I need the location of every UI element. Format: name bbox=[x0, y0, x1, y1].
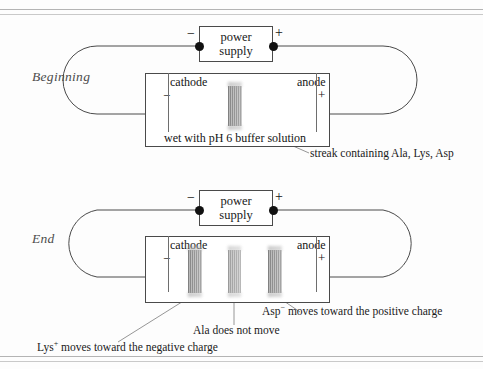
caption-lys-rest: moves toward the negative charge bbox=[58, 341, 218, 353]
terminal-dot-positive-end bbox=[269, 206, 278, 215]
caption-lys: Lys+ moves toward the negative charge bbox=[37, 341, 218, 353]
caption-asp: Asp− moves toward the positive charge bbox=[262, 305, 442, 317]
cathode-bar-beginning bbox=[168, 73, 169, 132]
psu-negative-sign-end: − bbox=[187, 191, 195, 205]
caption-lys-prefix: Lys bbox=[37, 341, 54, 353]
psu-positive-sign-beginning: + bbox=[275, 26, 283, 40]
anode-bar-end bbox=[316, 236, 317, 292]
caption-streak: streak containing Ala, Lys, Asp bbox=[310, 147, 454, 159]
terminal-dot-negative-end bbox=[195, 206, 204, 215]
terminal-dot-positive-beginning bbox=[269, 42, 278, 51]
electrophoresis-figure: Beginning power supply − + cathode − ano… bbox=[0, 0, 483, 369]
psu-line-1-end: power bbox=[220, 194, 251, 208]
bottom-rule-lower bbox=[0, 361, 483, 362]
bottom-rule-upper bbox=[0, 356, 483, 357]
stage-label-end: End bbox=[32, 231, 55, 247]
caption-asp-rest: moves toward the positive charge bbox=[285, 305, 442, 317]
anode-bar-beginning bbox=[316, 73, 317, 132]
band-asp bbox=[268, 250, 282, 293]
band-lys bbox=[188, 250, 202, 293]
power-supply-end: power supply bbox=[199, 190, 273, 226]
psu-line-2: supply bbox=[219, 44, 252, 58]
anode-sign-beginning: + bbox=[318, 88, 325, 101]
buffer-text-beginning: wet with pH 6 buffer solution bbox=[164, 131, 306, 146]
terminal-dot-negative-beginning bbox=[195, 42, 204, 51]
psu-positive-sign-end: + bbox=[275, 190, 283, 204]
cathode-sign-end: − bbox=[163, 252, 170, 265]
stage-label-beginning: Beginning bbox=[32, 69, 90, 85]
band-ala bbox=[228, 250, 241, 293]
cathode-bar-end bbox=[168, 236, 169, 292]
psu-line-1: power bbox=[220, 30, 251, 44]
anode-sign-end: + bbox=[318, 251, 325, 264]
caption-asp-prefix: Asp bbox=[262, 305, 281, 317]
power-supply-beginning: power supply bbox=[199, 26, 273, 62]
caption-ala: Ala does not move bbox=[193, 324, 280, 336]
cathode-sign-beginning: − bbox=[163, 89, 170, 102]
cathode-label-beginning: cathode bbox=[170, 75, 207, 90]
psu-negative-sign-beginning: − bbox=[187, 27, 195, 41]
psu-line-2-end: supply bbox=[219, 208, 252, 222]
band-streak-all bbox=[228, 86, 242, 126]
